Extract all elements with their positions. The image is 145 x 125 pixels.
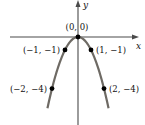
data-point (89, 48, 94, 53)
parabola-plot: xy (0, 0)(−1, −1)(1, −1)(−2, −4)(2, −4) (0, 0, 145, 125)
labeled-points: (0, 0)(−1, −1)(1, −1)(−2, −4)(2, −4) (10, 22, 139, 94)
data-point (50, 86, 55, 91)
y-axis-arrow-icon (76, 0, 81, 7)
x-axis-arrow-icon (132, 35, 139, 40)
point-label: (2, −4) (109, 84, 139, 94)
axes: xy (10, 0, 141, 125)
point-label: (−1, −1) (23, 45, 60, 55)
data-point (76, 35, 81, 40)
point-label: (−2, −4) (10, 84, 47, 94)
x-axis-label: x (136, 41, 141, 51)
data-point (63, 48, 68, 53)
point-label: (1, −1) (96, 45, 126, 55)
y-axis-label: y (82, 0, 89, 10)
point-label: (0, 0) (66, 22, 89, 32)
data-point (102, 86, 107, 91)
